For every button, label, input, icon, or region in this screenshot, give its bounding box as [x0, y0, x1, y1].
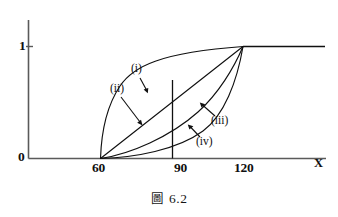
figure-caption: 圖6.2: [0, 188, 338, 207]
x-axis-tick-label-90: 90: [174, 161, 187, 175]
y-axis-tick-label-1: 1: [19, 39, 25, 53]
curve-label-i: (i): [131, 63, 142, 75]
curve-label-ii: (ii): [110, 83, 124, 95]
caption-figure-symbol: 圖: [151, 191, 165, 206]
x-axis-name-label: X: [314, 157, 323, 170]
curve-ii: [101, 47, 244, 159]
caption-figure-number: 6.2: [169, 191, 187, 206]
origin-tick-label-0: 0: [18, 150, 24, 164]
curve-label-iv: (iv): [196, 136, 213, 148]
curve-label-iii: (iii): [211, 115, 228, 127]
leader-ii: [121, 97, 143, 125]
plot-canvas: [0, 0, 338, 217]
x-axis-tick-label-60: 60: [92, 161, 105, 175]
leader-i: [140, 78, 148, 93]
x-axis-tick-label-120: 120: [234, 161, 253, 175]
figure-container: 1 0 60 90 120 X (i) (ii) (iii) (iv) 圖6.2: [0, 0, 338, 217]
